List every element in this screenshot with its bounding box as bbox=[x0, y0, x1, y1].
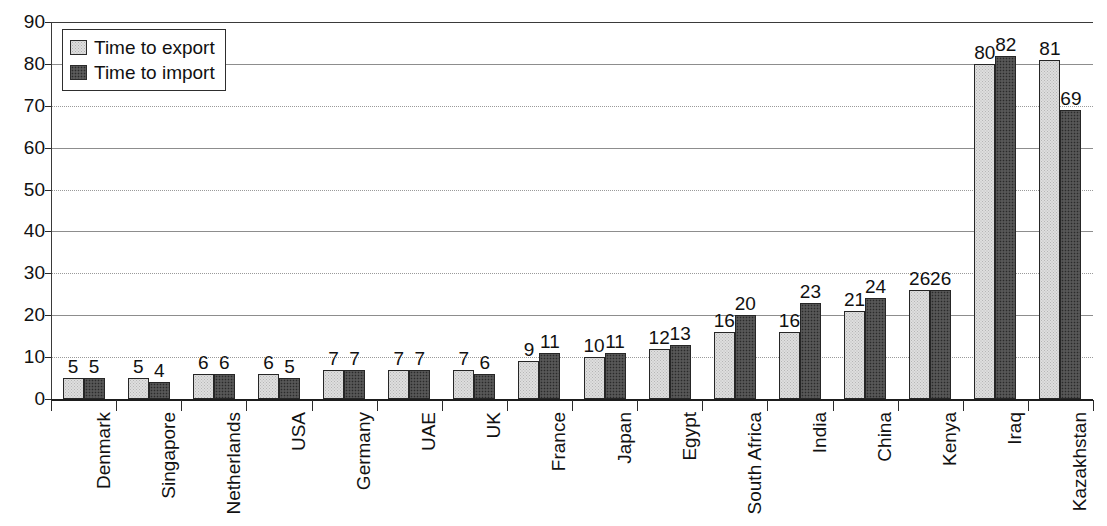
x-tick-label: South Africa bbox=[745, 412, 765, 526]
bar-value-label: 11 bbox=[595, 332, 635, 351]
x-tick-label: UK bbox=[484, 412, 504, 526]
x-tick-mark bbox=[637, 400, 638, 411]
bar-group: 77 bbox=[323, 22, 365, 399]
bar-value-label: 82 bbox=[986, 35, 1026, 54]
x-tick-label: Iraq bbox=[1005, 412, 1025, 526]
x-tick-label: France bbox=[549, 412, 569, 526]
bar-import bbox=[1060, 110, 1081, 399]
x-tick-label: Egypt bbox=[680, 412, 700, 526]
bar-export bbox=[193, 374, 214, 399]
bar-group: 1623 bbox=[779, 22, 821, 399]
bar-import bbox=[800, 303, 821, 399]
bar-group: 1213 bbox=[649, 22, 691, 399]
bar-import bbox=[409, 370, 430, 399]
bar-value-label: 11 bbox=[530, 332, 570, 351]
bar-import bbox=[865, 298, 886, 399]
bar-export bbox=[63, 378, 84, 399]
bar-value-label: 81 bbox=[1030, 39, 1070, 58]
bar-group: 1620 bbox=[714, 22, 756, 399]
bar-export bbox=[388, 370, 409, 399]
x-tick-mark bbox=[1028, 400, 1029, 411]
import-swatch bbox=[70, 65, 87, 80]
bar-value-label: 5 bbox=[269, 357, 309, 376]
bar-group: 2626 bbox=[909, 22, 951, 399]
bar-import bbox=[670, 345, 691, 399]
bar-value-label: 69 bbox=[1051, 89, 1091, 108]
x-tick-label: Denmark bbox=[94, 412, 114, 526]
bar-group: 65 bbox=[258, 22, 300, 399]
x-tick-mark bbox=[246, 400, 247, 411]
bar-import bbox=[474, 374, 495, 399]
bar-export bbox=[518, 361, 539, 399]
x-tick-mark bbox=[572, 400, 573, 411]
bar-export bbox=[258, 374, 279, 399]
x-tick-mark bbox=[702, 400, 703, 411]
bar-import bbox=[149, 382, 170, 399]
x-tick-label: Japan bbox=[615, 412, 635, 526]
bar-import bbox=[539, 353, 560, 399]
x-tick-mark bbox=[442, 400, 443, 411]
x-tick-label: Netherlands bbox=[224, 412, 244, 526]
bar-group: 76 bbox=[453, 22, 495, 399]
x-tick-mark bbox=[116, 400, 117, 411]
bar-export bbox=[128, 378, 149, 399]
legend-item: Time to export bbox=[70, 35, 215, 60]
bar-import bbox=[344, 370, 365, 399]
chart-legend: Time to exportTime to import bbox=[62, 29, 226, 91]
x-axis-tick-marks bbox=[51, 400, 1093, 412]
x-tick-label: USA bbox=[289, 412, 309, 526]
bar-export bbox=[779, 332, 800, 399]
bar-value-label: 26 bbox=[921, 269, 961, 288]
bar-export bbox=[1039, 60, 1060, 399]
bar-import bbox=[995, 56, 1016, 399]
bar-import bbox=[279, 378, 300, 399]
bar-export bbox=[323, 370, 344, 399]
x-tick-mark bbox=[507, 400, 508, 411]
bar-group: 8082 bbox=[974, 22, 1016, 399]
bar-export bbox=[714, 332, 735, 399]
bar-import bbox=[735, 315, 756, 399]
legend-label: Time to import bbox=[94, 63, 215, 82]
x-tick-mark bbox=[963, 400, 964, 411]
bar-value-label: 20 bbox=[725, 294, 765, 313]
x-tick-mark bbox=[312, 400, 313, 411]
bar-group: 77 bbox=[388, 22, 430, 399]
x-tick-label: Kazakhstan bbox=[1070, 412, 1090, 526]
x-tick-label: UAE bbox=[419, 412, 439, 526]
bar-export bbox=[844, 311, 865, 399]
bar-import bbox=[930, 290, 951, 399]
bar-group: 8169 bbox=[1039, 22, 1081, 399]
bar-value-label: 6 bbox=[204, 353, 244, 372]
bar-group: 2124 bbox=[844, 22, 886, 399]
bar-value-label: 5 bbox=[74, 357, 114, 376]
bar-value-label: 24 bbox=[856, 277, 896, 296]
bar-value-label: 23 bbox=[790, 282, 830, 301]
x-tick-mark bbox=[767, 400, 768, 411]
bar-export bbox=[584, 357, 605, 399]
export-swatch bbox=[70, 40, 87, 55]
x-tick-label: Singapore bbox=[159, 412, 179, 526]
x-tick-mark bbox=[51, 400, 52, 411]
bar-export bbox=[649, 349, 670, 399]
x-tick-label: Germany bbox=[354, 412, 374, 526]
bar-value-label: 13 bbox=[660, 324, 700, 343]
legend-label: Time to export bbox=[94, 38, 215, 57]
bar-value-label: 4 bbox=[139, 361, 179, 380]
x-tick-label: India bbox=[810, 412, 830, 526]
bar-value-label: 7 bbox=[400, 349, 440, 368]
bar-export bbox=[453, 370, 474, 399]
x-tick-mark bbox=[377, 400, 378, 411]
bar-value-label: 7 bbox=[335, 349, 375, 368]
bar-import bbox=[84, 378, 105, 399]
x-tick-label: Kenya bbox=[940, 412, 960, 526]
x-tick-label: China bbox=[875, 412, 895, 526]
bar-group: 1011 bbox=[584, 22, 626, 399]
bar-import bbox=[605, 353, 626, 399]
bar-export bbox=[974, 64, 995, 399]
x-tick-mark bbox=[181, 400, 182, 411]
bar-value-label: 6 bbox=[465, 353, 505, 372]
bar-group: 911 bbox=[518, 22, 560, 399]
y-axis-tick-marks bbox=[0, 22, 52, 399]
x-axis-tick-labels: DenmarkSingaporeNetherlandsUSAGermanyUAE… bbox=[51, 412, 1093, 526]
x-tick-mark bbox=[898, 400, 899, 411]
